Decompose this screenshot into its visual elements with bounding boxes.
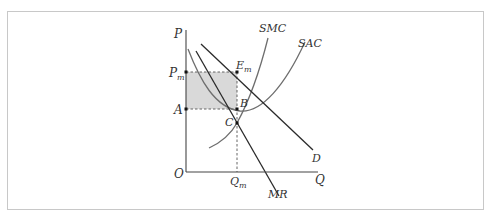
smc-label: SMC: [259, 22, 287, 35]
origin-label: O: [174, 167, 184, 181]
a-point: [185, 108, 188, 111]
demand-label: D: [311, 152, 321, 165]
x-axis-label: Q: [315, 173, 325, 187]
sac-label: SAC: [298, 37, 322, 50]
monopoly-diagram: P Q O SMC SAC D MR Pm A Qm Em B C: [0, 0, 490, 217]
pm-label: Pm: [168, 66, 185, 82]
em-label: Em: [235, 59, 252, 74]
b-point: [236, 108, 239, 111]
a-label: A: [173, 103, 183, 117]
c-label: C: [225, 116, 234, 129]
y-axis-label: P: [173, 27, 183, 41]
pm-point: [185, 71, 188, 74]
b-label: B: [239, 97, 248, 110]
qm-label: Qm: [230, 175, 247, 190]
mr-label: MR: [267, 188, 288, 201]
c-point: [236, 122, 239, 125]
